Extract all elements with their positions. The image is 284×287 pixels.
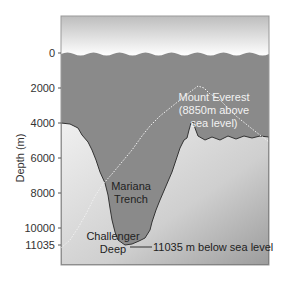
y-tick-label: 0	[49, 47, 55, 59]
everest-label-line2: (8850m above	[179, 104, 249, 116]
y-tick-label: 2000	[31, 82, 55, 94]
trench-annotation: Mariana Trench	[111, 180, 152, 205]
trench-label-line1: Mariana	[111, 180, 152, 192]
depth-diagram: 0 2000 4000 6000 8000 10000 11035 Depth …	[0, 0, 284, 287]
y-tick-label: 11035	[25, 239, 55, 251]
everest-label-line3: sea level)	[190, 117, 237, 129]
y-tick-label: 8000	[31, 187, 55, 199]
y-tick-label: 6000	[31, 152, 55, 164]
trench-label-line2: Trench	[114, 193, 148, 205]
y-tick-label: 4000	[31, 117, 55, 129]
y-tick-label: 10000	[24, 222, 55, 234]
sky-region	[61, 16, 269, 56]
deep-label-line1: Challenger	[86, 230, 140, 242]
deep-label-line2: Deep	[100, 243, 126, 255]
y-axis-title: Depth (m)	[14, 134, 26, 183]
deep-depth-label: 11035 m below sea level	[153, 241, 273, 253]
y-tick-labels: 0 2000 4000 6000 8000 10000 11035	[24, 47, 55, 251]
everest-label-line1: Mount Everest	[179, 91, 250, 103]
